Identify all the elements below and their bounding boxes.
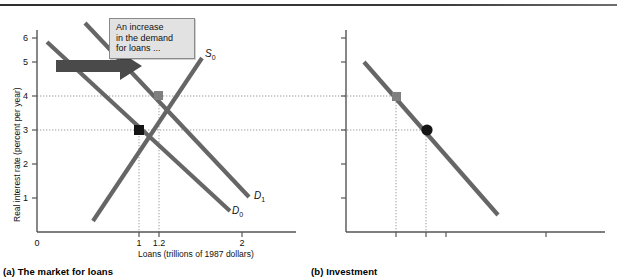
panel-caption-a: (a) The market for loans: [3, 266, 113, 277]
y-tick-label-1: 1: [14, 193, 28, 203]
curve-label-s0: S0: [205, 48, 216, 61]
supply-curve-s0: [93, 58, 202, 221]
callout-demand-increase: An increase in the demand for loans ...: [109, 18, 195, 59]
y-axis-ticks-panel-a: [32, 38, 37, 198]
investment-demand-curve-id: [364, 62, 498, 215]
equilibrium-marker-initial: [134, 125, 144, 135]
equilibrium-marker-new: [154, 91, 163, 100]
curve-label-s0-sub: 0: [212, 54, 216, 61]
x-tick-label-2: 2: [232, 238, 252, 248]
panel-investment: ... decreases investment Real interest r…: [308, 0, 616, 279]
x-tick-label-1: 1: [129, 238, 149, 248]
y-axis-ticks-panel-b: [341, 38, 346, 198]
origin-label-panel-a: 0: [27, 238, 47, 248]
curve-label-d1-sub: 1: [261, 196, 265, 203]
curve-label-d0: D0: [232, 205, 243, 218]
y-tick-label-6: 6: [14, 33, 28, 43]
panel-market-for-loans: An increase in the demand for loans ... …: [0, 0, 308, 279]
y-tick-label-3: 3: [14, 125, 28, 135]
x-axis-ticks-panel-a: [139, 232, 242, 237]
plot-area-panel-b: [308, 0, 616, 279]
x-axis-title-panel-a: Loans (trillions of 1987 dollars): [138, 249, 254, 259]
investment-marker-initial: [421, 124, 432, 135]
figure-root: An increase in the demand for loans ... …: [0, 0, 617, 279]
axes-panel-b: [346, 30, 605, 232]
curve-label-s0-text: S: [205, 48, 212, 59]
guidelines-panel-b: [308, 96, 426, 232]
curve-label-d1: D1: [254, 190, 265, 203]
investment-marker-new: [392, 92, 401, 101]
y-tick-label-5: 5: [14, 57, 28, 67]
y-tick-label-4: 4: [14, 91, 28, 101]
x-axis-ticks-panel-b: [396, 232, 546, 237]
y-tick-label-2: 2: [14, 159, 28, 169]
x-tick-label-1-2: 1.2: [149, 238, 169, 248]
curves-panel-b: [364, 62, 498, 215]
panel-caption-b: (b) Investment: [311, 266, 377, 277]
curve-label-d0-sub: 0: [239, 211, 243, 218]
